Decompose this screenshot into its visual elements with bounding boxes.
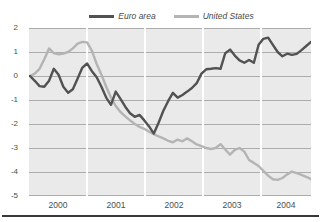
y-axis-label--3: -3 (0, 143, 18, 153)
y-axis-label-2: 2 (0, 23, 18, 33)
legend-item-united-states: United States (174, 11, 254, 21)
united-states-line (30, 42, 311, 180)
x-axis-label-2000: 2000 (38, 200, 78, 210)
united-states-legend-label: United States (203, 11, 254, 21)
y-axis-label--1: -1 (0, 95, 18, 105)
y-axis-label-1: 1 (0, 47, 18, 57)
plot-area (29, 28, 311, 196)
x-axis-label-2002: 2002 (154, 200, 194, 210)
euro-area-line-swatch (89, 15, 114, 18)
y-axis-label-0: 0 (0, 71, 18, 81)
euro-area-line (30, 38, 311, 134)
series-plot (29, 28, 311, 196)
y-axis-label--5: -5 (0, 191, 18, 201)
legend-item-euro-area: Euro area (89, 11, 155, 21)
x-axis-label-2004: 2004 (266, 200, 306, 210)
x-axis-label-2001: 2001 (96, 200, 136, 210)
chart-legend: Euro area United States (0, 9, 321, 23)
bottom-rule (2, 215, 319, 217)
x-axis-label-2003: 2003 (212, 200, 252, 210)
y-axis-label--2: -2 (0, 119, 18, 129)
united-states-line-swatch (174, 15, 199, 18)
chart-card: Euro area United States 210-1-2-3-4-5200… (0, 0, 321, 222)
euro-area-legend-label: Euro area (118, 11, 155, 21)
y-axis-label--4: -4 (0, 167, 18, 177)
